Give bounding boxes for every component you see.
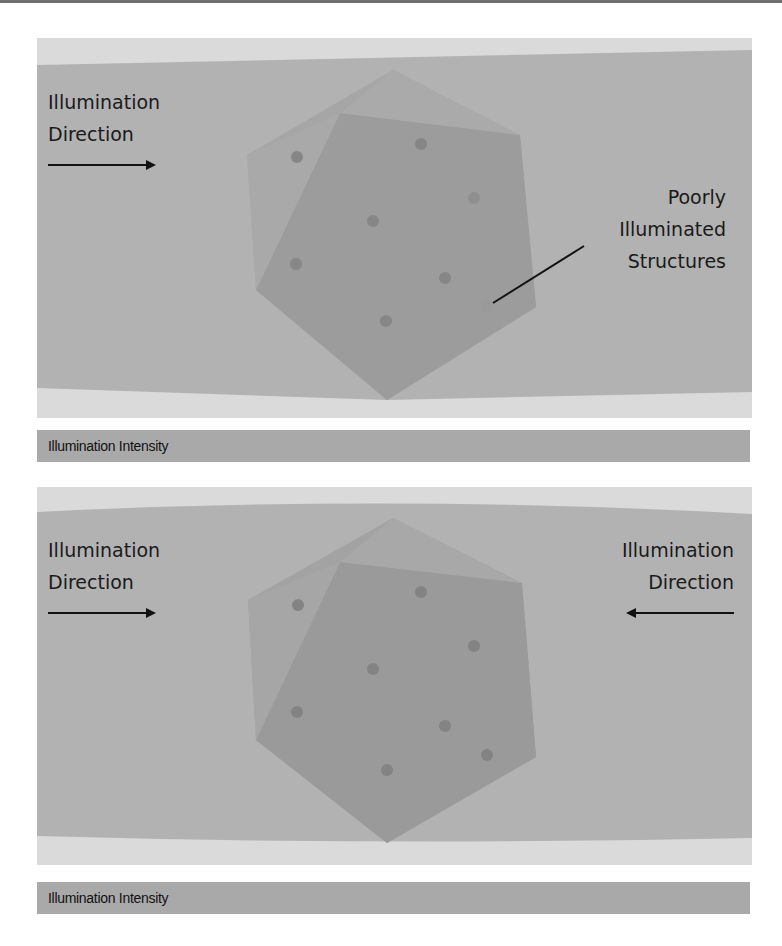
- label-line: Direction: [560, 566, 734, 598]
- illumination-direction-label-top: Illumination Direction: [48, 86, 160, 150]
- label-line: Illumination: [48, 86, 160, 118]
- illumination-direction-label-right: Illumination Direction: [560, 534, 734, 598]
- illumination-intensity-bar-top: Illumination Intensity: [37, 430, 750, 462]
- intensity-bar-label: Illumination Intensity: [48, 890, 168, 906]
- annotation-line: Illuminated: [560, 213, 726, 245]
- label-line: Illumination: [560, 534, 734, 566]
- label-line: Illumination: [48, 534, 160, 566]
- label-line: Direction: [48, 566, 160, 598]
- intensity-bar-label: Illumination Intensity: [48, 438, 168, 454]
- label-line: Direction: [48, 118, 160, 150]
- illumination-direction-label-left: Illumination Direction: [48, 534, 160, 598]
- annotation-line: Structures: [560, 245, 726, 277]
- annotation-line: Poorly: [560, 181, 726, 213]
- illumination-intensity-bar-bottom: Illumination Intensity: [37, 882, 750, 914]
- poorly-illuminated-annotation: Poorly Illuminated Structures: [560, 181, 726, 277]
